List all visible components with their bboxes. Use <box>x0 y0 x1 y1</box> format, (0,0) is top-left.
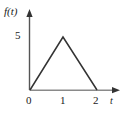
y-axis-arrow-icon <box>26 9 32 17</box>
x-axis-label: t <box>110 96 113 106</box>
x-axis-arrow-icon <box>112 87 120 93</box>
x-tick-label-0: 0 <box>26 95 32 106</box>
y-tick-label-5: 5 <box>15 30 21 41</box>
function-plot-figure: f(t) 5 0 1 2 t <box>0 0 131 113</box>
triangular-pulse-curve <box>30 37 97 90</box>
x-tick-label-2: 2 <box>93 95 99 106</box>
x-tick-label-1: 1 <box>60 95 66 106</box>
y-axis-label: f(t) <box>4 6 17 17</box>
